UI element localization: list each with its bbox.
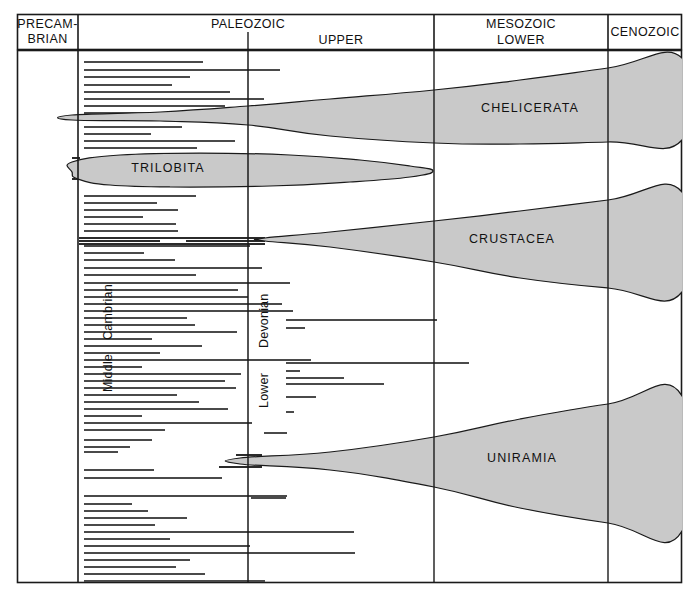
taxon-label-trilobita: TRILOBITA	[131, 161, 205, 175]
taxon-label-chelicerata: CHELICERATA	[481, 101, 579, 115]
header-label-mesozoic: MESOZOIC	[486, 17, 556, 31]
header-label-precambrian-line1: PRECAM-	[17, 17, 77, 31]
header-label-cenozoic: CENOZOIC	[610, 25, 679, 39]
stratigraphic-range-chart: PRECAM- BRIAN PALEOZOIC UPPER MESOZOIC L…	[0, 0, 699, 597]
header-label-upper: UPPER	[318, 33, 363, 47]
header-label-precambrian-line2: BRIAN	[27, 32, 67, 46]
range-chart-figure: PRECAM- BRIAN PALEOZOIC UPPER MESOZOIC L…	[0, 0, 699, 597]
header-label-paleozoic: PALEOZOIC	[211, 17, 285, 31]
taxon-label-uniramia: UNIRAMIA	[487, 451, 557, 465]
period-label-lower: Lower	[257, 373, 271, 408]
taxon-label-crustacea: CRUSTACEA	[469, 232, 555, 246]
period-label-middle: Middle	[101, 354, 115, 392]
period-label-devonian: Devonian	[257, 294, 271, 348]
period-label-cambrian: Cambrian	[101, 284, 115, 340]
header-label-mesozoic-lower: LOWER	[497, 33, 545, 47]
